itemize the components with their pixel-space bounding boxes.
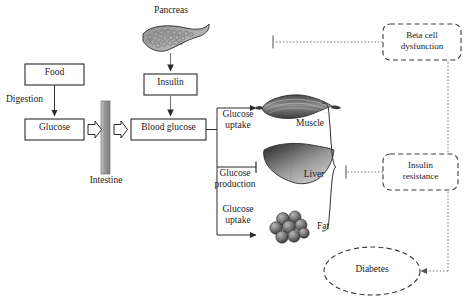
glucose-uptake-muscle-label-line1: Glucose <box>212 110 264 120</box>
food-label: Food <box>25 68 84 78</box>
muscle-label: Muscle <box>288 119 332 129</box>
beta-cell-dysfunction-label-line1: Beta cell <box>383 31 461 40</box>
glucose-production-label-line2: production <box>206 180 264 190</box>
block-arrow-glucose-intestine <box>88 121 102 138</box>
block-arrow-intestine-blood <box>114 121 128 138</box>
insulin-label: Insulin <box>144 78 197 88</box>
blood-glucose-label: Blood glucose <box>131 123 206 133</box>
fat-illustration <box>270 211 309 243</box>
digestion-label: Digestion <box>6 95 54 105</box>
liver-label: Liver <box>296 170 332 180</box>
intestine-bar <box>101 101 110 174</box>
glucose-uptake-fat-label-line1: Glucose <box>212 205 264 215</box>
fat-label: Fat <box>310 222 336 232</box>
glucose-uptake-muscle-label-line2: uptake <box>212 121 264 131</box>
intestine-label: Intestine <box>76 176 136 186</box>
pancreas-illustration <box>143 24 209 51</box>
diagram-canvas: Food Glucose Insulin Blood glucose Diges… <box>0 0 472 305</box>
glucose-uptake-fat-label-line2: uptake <box>212 216 264 226</box>
beta-cell-dysfunction-label-line2: dysfunction <box>383 42 461 51</box>
insulin-resistance-label-line2: resistance <box>383 172 458 181</box>
pancreas-label: Pancreas <box>140 6 202 16</box>
diabetes-label: Diabetes <box>324 265 420 275</box>
insulin-resistance-label-line1: Insulin <box>383 161 458 170</box>
glucose-label: Glucose <box>25 123 84 133</box>
glucose-production-label-line1: Glucose <box>206 169 264 179</box>
